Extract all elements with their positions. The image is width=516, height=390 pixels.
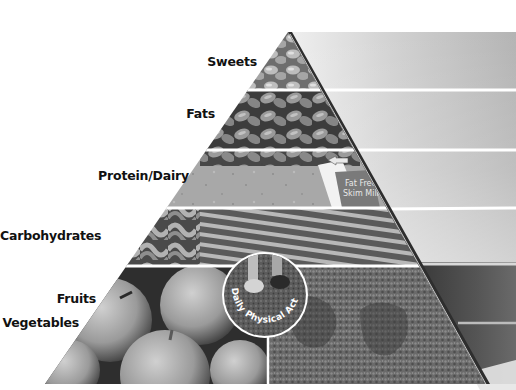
tier-label-protein-dairy: Protein/Dairy [98,168,189,183]
tier-label-fruits: Fruits [57,291,96,306]
tier-label-fats: Fats [186,106,215,121]
food-pyramid: Fat Free Skim Milk [0,0,516,390]
tier-label-vegetables: Vegetables [3,315,79,330]
shoe-icon [244,279,264,293]
carton-text-line2: Skim Milk [343,189,382,198]
tier-label-carbohydrates: Carbohydrates [0,228,101,243]
tier-label-sweets: Sweets [207,54,257,69]
shoe-icon [270,275,290,289]
